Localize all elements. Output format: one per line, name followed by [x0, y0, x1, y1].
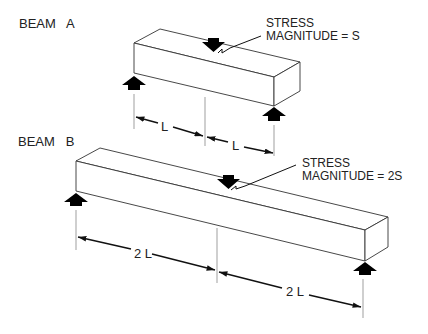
beam-a-stress-label-1: STRESS — [266, 16, 314, 30]
beam-a-dimension — [136, 117, 273, 153]
beam-b-right-support-arrow-icon — [353, 262, 377, 275]
beam-b-stress-label-2: MAGNITUDE = 2S — [302, 169, 402, 183]
beam-a-left-support-arrow-icon — [122, 76, 146, 90]
beam-b-stress-label-1: STRESS — [302, 156, 350, 170]
beam-diagram: BEAM A STRESS MAGNITUDE = S L — [0, 0, 428, 334]
beam-b-span-right-label: 2 L — [286, 284, 304, 299]
beam-a-right-support-arrow-icon — [262, 107, 286, 121]
beam-a-title: BEAM A — [19, 16, 75, 31]
beam-b-span-left-label: 2 L — [134, 246, 152, 261]
beam-b-left-support-arrow-icon — [64, 193, 88, 206]
beam-a-span-right-label: L — [232, 138, 239, 153]
beam-a-stress-label-2: MAGNITUDE = S — [266, 29, 360, 43]
beam-b: BEAM B STRESS MAGNITUDE = 2S 2 L 2 L — [18, 134, 402, 318]
beam-b-title: BEAM B — [18, 134, 74, 149]
beam-a-span-left-label: L — [161, 119, 168, 134]
